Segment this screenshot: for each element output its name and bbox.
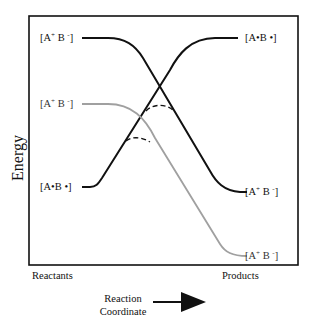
left-label-ionic-middle: [A+ B -] xyxy=(40,99,73,110)
label-part: B xyxy=(55,32,67,43)
dashed-arc-upper xyxy=(146,105,174,111)
label-part: B xyxy=(260,186,272,197)
label-part: ] xyxy=(70,32,74,43)
plot-frame xyxy=(29,16,298,265)
label-part: ] xyxy=(275,186,279,197)
label-part: B xyxy=(260,250,272,261)
x-axis-caption-line2: Coordinate xyxy=(95,305,151,318)
label-part: [A xyxy=(245,250,256,261)
left-label-radical-low: [A•B •] xyxy=(40,182,72,193)
right-label-radical-high: [A•B •] xyxy=(245,33,277,44)
right-label-ionic-middle: [A+ B -] xyxy=(245,187,278,198)
x-axis-caption: Reaction Coordinate xyxy=(95,292,151,318)
dashed-arc-lower xyxy=(126,138,150,142)
label-part: B xyxy=(55,98,67,109)
x-axis-start-label: Reactants xyxy=(32,271,73,282)
curve-radical-black xyxy=(82,38,238,187)
label-part: ] xyxy=(70,98,74,109)
label-part: ] xyxy=(275,250,279,261)
right-arrow-icon xyxy=(153,292,206,312)
x-axis-caption-line1: Reaction xyxy=(95,292,151,305)
y-axis-label: Energy xyxy=(10,130,26,186)
label-part: [A xyxy=(245,186,256,197)
label-part: [A xyxy=(40,32,51,43)
curve-ionic-gray xyxy=(82,104,247,256)
right-label-ionic-low: [A+ B -] xyxy=(245,251,278,262)
left-label-ionic-high: [A+ B -] xyxy=(40,33,73,44)
x-axis-end-label: Products xyxy=(222,271,259,282)
label-part: [A xyxy=(40,98,51,109)
